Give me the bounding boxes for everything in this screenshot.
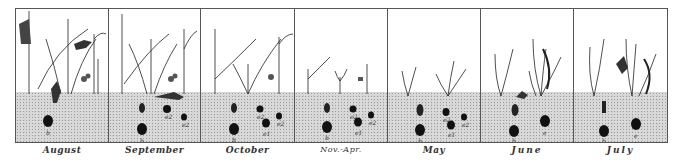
panel-september: b e2 e2 bbox=[108, 8, 201, 143]
life-cycle-figure: b b e2 e2 bbox=[0, 0, 675, 160]
caption-october: October bbox=[200, 145, 295, 155]
svg-text:b: b bbox=[512, 137, 516, 143]
plant-insect-drawing: b bbox=[16, 9, 109, 143]
svg-text:e2: e2 bbox=[277, 120, 285, 127]
svg-text:e1: e1 bbox=[448, 131, 455, 138]
svg-text:b: b bbox=[325, 134, 329, 141]
panel-august: b bbox=[15, 8, 109, 143]
svg-text:e2: e2 bbox=[257, 113, 265, 120]
svg-text:e2: e2 bbox=[182, 121, 190, 128]
svg-text:e2: e2 bbox=[443, 116, 451, 123]
svg-text:e2: e2 bbox=[165, 113, 173, 120]
grasshopper-icon bbox=[19, 19, 31, 44]
panel-october: b e2 e1 e2 bbox=[200, 8, 295, 143]
svg-text:b: b bbox=[418, 137, 422, 143]
caption-august: August bbox=[15, 145, 109, 155]
svg-text:e2: e2 bbox=[462, 121, 470, 128]
panel-june: b e bbox=[480, 8, 574, 143]
caption-september: September bbox=[108, 145, 201, 155]
svg-text:b: b bbox=[602, 137, 606, 143]
panel-july: b e bbox=[573, 8, 668, 143]
svg-text:b: b bbox=[140, 137, 144, 143]
svg-text:e: e bbox=[543, 129, 547, 136]
grasshopper-icon bbox=[616, 56, 628, 74]
svg-text:b: b bbox=[46, 129, 50, 136]
svg-text:b: b bbox=[232, 136, 236, 143]
panel-nov-apr: b e2 e1 e2 bbox=[294, 8, 388, 143]
caption-july: July bbox=[573, 145, 668, 155]
caption-june: June bbox=[480, 145, 574, 155]
caption-nov-apr: Nov.-Apr. bbox=[294, 145, 388, 154]
svg-text:e1: e1 bbox=[263, 130, 270, 137]
svg-text:e2: e2 bbox=[369, 119, 377, 126]
svg-text:e1: e1 bbox=[355, 129, 362, 136]
svg-text:e2: e2 bbox=[350, 113, 358, 120]
panel-may: b e2 e1 e2 bbox=[387, 8, 481, 143]
egg-pod-icon bbox=[43, 115, 53, 127]
svg-text:e: e bbox=[634, 132, 638, 139]
caption-may: May bbox=[387, 145, 481, 155]
